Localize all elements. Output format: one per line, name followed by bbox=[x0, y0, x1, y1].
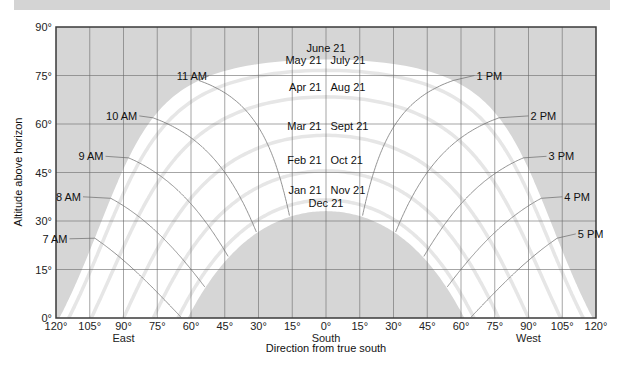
hour-label: 7 AM bbox=[42, 233, 67, 245]
x-tick-label: 30° bbox=[385, 320, 402, 332]
direction-label: East bbox=[112, 332, 134, 344]
x-tick-label: 60° bbox=[453, 320, 470, 332]
x-axis-ticks: 120°105°90°75°60°45°30°15°0°15°30°45°60°… bbox=[45, 320, 608, 344]
hour-label: 1 PM bbox=[477, 70, 503, 82]
hour-label: 2 PM bbox=[531, 110, 557, 122]
x-tick-label: 0° bbox=[321, 320, 332, 332]
hour-label: 3 PM bbox=[549, 150, 575, 162]
x-tick-label: 120° bbox=[585, 320, 608, 332]
x-tick-label: 105° bbox=[78, 320, 101, 332]
hour-label: 10 AM bbox=[106, 110, 137, 122]
y-tick-label: 75° bbox=[35, 70, 52, 82]
x-axis-title: Direction from true south bbox=[266, 342, 386, 354]
x-tick-label: 15° bbox=[351, 320, 368, 332]
y-axis-ticks: 0°15°30°45°60°75°90° bbox=[35, 21, 52, 324]
y-tick-label: 90° bbox=[35, 21, 52, 33]
hour-label: 5 PM bbox=[578, 228, 604, 240]
date-label: Mar 21 bbox=[287, 120, 321, 132]
x-tick-label: 15° bbox=[284, 320, 301, 332]
x-tick-label: 60° bbox=[183, 320, 200, 332]
direction-label: West bbox=[516, 332, 541, 344]
date-label: Aug 21 bbox=[331, 81, 366, 93]
hour-label: 9 AM bbox=[78, 150, 103, 162]
hour-label: 11 AM bbox=[177, 70, 207, 82]
x-tick-label: 90° bbox=[115, 320, 132, 332]
y-axis-title: Altitude above horizon bbox=[12, 118, 24, 227]
date-label: Apr 21 bbox=[289, 81, 321, 93]
x-tick-label: 75° bbox=[486, 320, 503, 332]
date-label: Dec 21 bbox=[309, 197, 344, 209]
x-tick-label: 30° bbox=[250, 320, 267, 332]
x-tick-label: 90° bbox=[520, 320, 537, 332]
hour-label: 4 PM bbox=[564, 191, 590, 203]
y-tick-label: 60° bbox=[35, 118, 52, 130]
date-label: Oct 21 bbox=[331, 154, 363, 166]
date-label: Feb 21 bbox=[287, 154, 321, 166]
sun-path-chart: June 21May 21July 21Apr 21Aug 21Mar 21Se… bbox=[0, 0, 626, 372]
x-tick-label: 45° bbox=[419, 320, 436, 332]
date-label: May 21 bbox=[285, 54, 321, 66]
date-label: Jan 21 bbox=[288, 184, 321, 196]
date-label: Sept 21 bbox=[331, 120, 369, 132]
x-tick-label: 75° bbox=[149, 320, 166, 332]
y-tick-label: 15° bbox=[35, 264, 52, 276]
x-tick-label: 45° bbox=[216, 320, 233, 332]
hour-label: 8 AM bbox=[56, 191, 81, 203]
date-label: June 21 bbox=[306, 42, 345, 54]
y-tick-label: 45° bbox=[35, 167, 52, 179]
date-label: Nov 21 bbox=[331, 184, 366, 196]
x-tick-label: 105° bbox=[551, 320, 574, 332]
y-tick-label: 30° bbox=[35, 215, 52, 227]
date-label: July 21 bbox=[331, 54, 366, 66]
y-tick-label: 0° bbox=[41, 312, 52, 324]
